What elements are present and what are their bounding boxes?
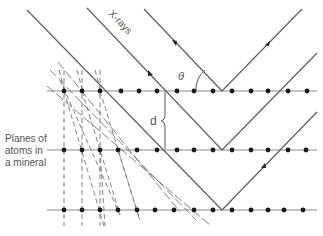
atom-dot — [155, 148, 160, 153]
atom-dot — [155, 89, 160, 94]
atom-dot — [192, 208, 197, 213]
atom-dot — [116, 208, 121, 213]
planes-label-line2: atoms in — [5, 145, 43, 156]
atom-dot — [305, 89, 310, 94]
atom-dot — [137, 89, 142, 94]
atom-dot — [266, 208, 271, 213]
atom-dot — [266, 89, 271, 94]
atom-dot — [249, 89, 254, 94]
atom-dot — [172, 208, 177, 213]
atom-dot — [282, 208, 287, 213]
theta-label: θ — [178, 70, 184, 82]
atom-dot — [98, 208, 103, 213]
atom-dot — [175, 148, 180, 153]
atom-dot — [211, 208, 216, 213]
atom-dot — [80, 148, 85, 153]
theta-arc — [196, 70, 205, 91]
arrow-icon — [172, 40, 177, 46]
atom-dot — [135, 208, 140, 213]
diagonal-plane-lines — [47, 62, 210, 225]
atom-dot — [80, 208, 85, 213]
atom-dot — [98, 89, 103, 94]
atom-dot — [116, 148, 121, 153]
atom-dot — [286, 89, 291, 94]
arrow-icon — [265, 41, 270, 46]
atom-dot — [304, 148, 309, 153]
atom-dot — [62, 208, 67, 213]
atom-dot — [80, 89, 85, 94]
ray-1-reflected — [222, 9, 302, 91]
atom-dot — [175, 89, 180, 94]
atom-dot — [62, 89, 67, 94]
ray-2-reflected — [222, 53, 317, 150]
atom-dot — [301, 208, 306, 213]
xrays-label: X-rays — [107, 8, 135, 36]
ray-2-incident — [87, 8, 222, 150]
arrow-icon — [261, 163, 266, 168]
atom-dot — [192, 148, 197, 153]
ray-3-incident — [27, 10, 222, 210]
atom-dot — [230, 208, 235, 213]
planes-label-line1: Planes of — [5, 133, 47, 144]
atom-dot — [62, 148, 67, 153]
atom-dot — [119, 89, 124, 94]
atom-dot — [249, 208, 254, 213]
d-label: d — [150, 114, 157, 128]
xray-diffraction-diagram: θ d X-rays Planes of atoms in a mineral — [0, 0, 323, 236]
atom-dot — [135, 148, 140, 153]
atom-dot — [98, 148, 103, 153]
atom-dot — [286, 148, 291, 153]
arrow-icon — [148, 70, 153, 76]
ray-3-reflected — [222, 112, 317, 210]
atom-dot — [266, 148, 271, 153]
atom-dot — [211, 89, 216, 94]
d-bracket — [161, 92, 165, 149]
atom-dot — [230, 148, 235, 153]
atom-dot — [249, 148, 254, 153]
atom-dot — [211, 148, 216, 153]
planes-label-line3: a mineral — [5, 157, 46, 168]
atom-dot — [153, 208, 158, 213]
atom-dot — [230, 89, 235, 94]
xray-beams — [27, 8, 317, 210]
